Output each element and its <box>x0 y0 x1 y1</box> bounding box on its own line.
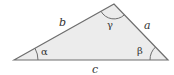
side-label-b: b <box>59 16 66 29</box>
triangle-diagram: b a c α γ β <box>0 0 174 75</box>
triangle-shape <box>14 4 168 60</box>
angle-label-beta: β <box>137 45 143 56</box>
side-label-c: c <box>92 63 98 75</box>
side-label-a: a <box>144 19 151 32</box>
angle-label-gamma: γ <box>107 19 113 30</box>
angle-label-alpha: α <box>41 46 48 57</box>
